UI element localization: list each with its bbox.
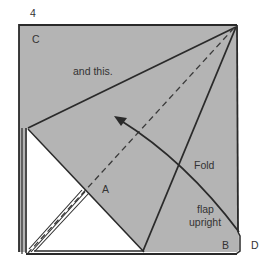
upright-instruction-text: upright: [189, 217, 221, 228]
corner-label-c: C: [32, 34, 40, 45]
corner-label-b: B: [222, 240, 229, 251]
right-edge: [237, 25, 238, 232]
instruction-text: and this.: [73, 66, 113, 77]
flap-instruction-text: flap: [197, 204, 214, 215]
fold-instruction-text: Fold: [194, 160, 214, 171]
step-number: 4: [30, 8, 36, 19]
point-label-a: A: [102, 184, 109, 195]
corner-label-d: D: [251, 240, 259, 251]
